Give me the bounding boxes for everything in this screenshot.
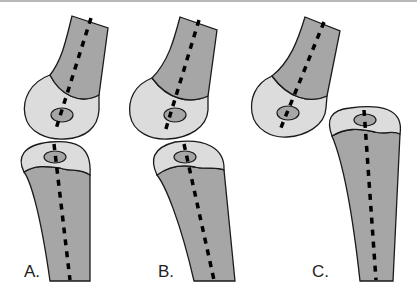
panel-b-upper-shaft: [152, 17, 217, 100]
panel-label-b: B.: [158, 262, 174, 282]
panel-label-a: A.: [24, 262, 40, 282]
panel-c: [252, 17, 401, 281]
panel-c-lower-bone: [329, 107, 400, 281]
panel-c-lower-shaft: [332, 129, 400, 281]
panel-b-lower-bone: [153, 141, 235, 281]
panel-label-c: C.: [312, 262, 329, 282]
panel-b-lower-ossification-center: [174, 151, 196, 163]
panel-a-upper-bone: [24, 16, 108, 139]
panel-a: [21, 16, 108, 281]
panel-b: [130, 17, 235, 281]
panel-b-upper-ossification-center: [164, 108, 186, 122]
panel-a-lower-bone: [21, 142, 90, 281]
panel-c-upper-shaft: [272, 17, 340, 99]
bone-diagram: [0, 0, 417, 290]
panel-c-upper-bone: [252, 17, 340, 137]
panel-b-upper-bone: [130, 17, 217, 139]
